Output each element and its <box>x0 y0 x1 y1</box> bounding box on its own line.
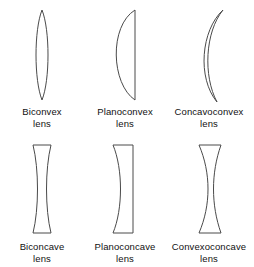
lens-label-planoconcave: Planoconcave lens <box>95 241 156 264</box>
lens-label-kind: lens <box>172 253 246 265</box>
lens-label-name: Planoconvex <box>97 106 153 118</box>
planoconvex-lens-shape <box>116 10 135 100</box>
lens-label-kind: lens <box>95 253 156 265</box>
concavoconvex-lens-illustration <box>167 4 251 104</box>
planoconvex-lens-illustration <box>83 4 167 104</box>
lens-label-name: Planoconcave <box>95 241 156 253</box>
lens-item-concavoconvex: Concavoconvex lens <box>167 4 251 129</box>
convexoconcave-lens-illustration <box>167 139 251 239</box>
biconcave-lens-illustration <box>0 139 84 239</box>
planoconcave-lens-shape <box>113 145 133 233</box>
planoconcave-lens-illustration <box>83 139 167 239</box>
biconvex-lens-illustration <box>0 4 84 104</box>
biconvex-lens-shape <box>36 10 48 100</box>
lens-label-kind: lens <box>175 118 244 130</box>
lens-item-biconcave: Biconcave lens <box>0 139 84 264</box>
lens-item-convexoconcave: Convexoconcave lens <box>167 139 251 264</box>
lens-label-kind: lens <box>20 253 65 265</box>
lens-label-kind: lens <box>22 118 61 130</box>
lens-label-concavoconvex: Concavoconvex lens <box>175 106 244 129</box>
lens-label-name: Convexoconcave <box>172 241 246 253</box>
lens-label-name: Biconvex <box>22 106 61 118</box>
lens-label-biconcave: Biconcave lens <box>20 241 65 264</box>
concavoconvex-lens-shape <box>204 10 223 102</box>
lens-label-biconvex: Biconvex lens <box>22 106 61 129</box>
convexoconcave-lens-shape <box>199 145 221 233</box>
biconcave-lens-shape <box>33 145 51 233</box>
lens-types-diagram: Biconvex lens Planoconvex lens Concavoco… <box>0 0 254 267</box>
lens-label-name: Biconcave <box>20 241 65 253</box>
lens-item-planoconvex: Planoconvex lens <box>83 4 167 129</box>
lens-label-name: Concavoconvex <box>175 106 244 118</box>
lens-item-planoconcave: Planoconcave lens <box>83 139 167 264</box>
lens-label-convexoconcave: Convexoconcave lens <box>172 241 246 264</box>
lens-item-biconvex: Biconvex lens <box>0 4 84 129</box>
lens-label-planoconvex: Planoconvex lens <box>97 106 153 129</box>
lens-label-kind: lens <box>97 118 153 130</box>
